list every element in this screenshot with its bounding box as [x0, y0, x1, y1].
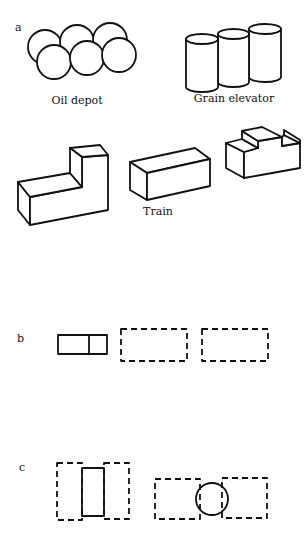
panel-c-right-shapes	[155, 478, 267, 519]
caption-oil-depot: Oil depot	[51, 95, 102, 106]
panel-c-left-shapes	[57, 463, 129, 520]
panel-label-c: c	[19, 462, 25, 473]
caption-grain-elevator: Grain elevator	[194, 93, 274, 104]
l-block-icon	[18, 145, 108, 225]
caption-train: Train	[143, 206, 173, 217]
train-box-icon	[130, 148, 210, 200]
stepped-block-icon	[226, 127, 300, 178]
oil-depot-icon	[28, 23, 136, 79]
figure-canvas	[0, 0, 305, 550]
grain-elevator-icon	[186, 24, 281, 92]
panel-label-b: b	[17, 333, 24, 344]
panel-label-a: a	[15, 22, 22, 33]
panel-b-shapes	[58, 329, 268, 361]
